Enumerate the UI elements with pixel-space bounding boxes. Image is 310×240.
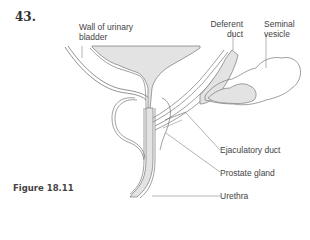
- label-ejaculatory-duct: Ejaculatory duct: [220, 146, 280, 156]
- label-deferent-duct: Deferent duct: [203, 20, 243, 39]
- label-seminal-vesicle: Seminal vesicle: [264, 20, 295, 39]
- prostate-gland: [112, 98, 171, 160]
- urethra: [130, 108, 155, 198]
- label-urethra: Urethra: [220, 192, 248, 202]
- figure-caption: Figure 18.11: [13, 183, 74, 193]
- label-wall-of-urinary-bladder: Wall of urinary bladder: [79, 23, 133, 42]
- label-prostate-gland: Prostate gland: [220, 169, 275, 179]
